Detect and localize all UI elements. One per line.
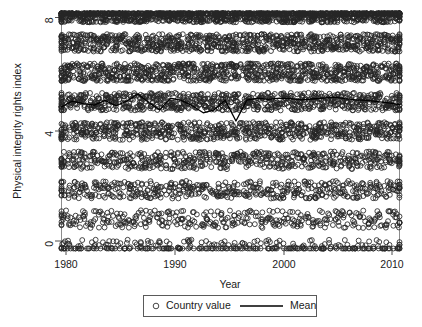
scatter-point [228, 208, 233, 213]
scatter-point [120, 48, 125, 53]
scatter-point [275, 151, 280, 156]
scatter-point [97, 225, 102, 230]
scatter-point [349, 121, 354, 126]
scatter-point [125, 237, 130, 242]
scatter-point [209, 165, 214, 170]
scatter-point [254, 162, 259, 167]
scatter-point [255, 238, 260, 243]
scatter-point [126, 225, 131, 230]
scatter-point [76, 196, 81, 201]
chart-figure: 8 4 0 1980 1990 2000 2010 Physical integ… [0, 0, 422, 327]
scatter-plot: 8 4 0 1980 1990 2000 2010 Physical integ… [0, 0, 422, 327]
scatter-point [247, 222, 252, 227]
scatter-point [80, 238, 85, 243]
x-tick-label-1990: 1990 [163, 258, 187, 270]
scatter-point [141, 215, 146, 220]
x-tick-label-2000: 2000 [272, 258, 296, 270]
scatter-point [252, 222, 257, 227]
scatter-point [67, 165, 72, 170]
x-tick-label-2010: 2010 [380, 258, 404, 270]
scatter-point [278, 108, 283, 113]
y-tick-label-4: 4 [43, 131, 55, 137]
scatter-point [274, 120, 279, 125]
scatter-point [258, 241, 263, 246]
scatter-points-layer [59, 11, 402, 251]
scatter-point [224, 121, 229, 126]
scatter-point [202, 194, 207, 199]
scatter-point [64, 208, 69, 213]
y-tick-label-0: 0 [43, 241, 55, 247]
scatter-point [164, 192, 169, 197]
y-axis-title: Physical integrity rights index [11, 63, 23, 199]
legend-mean-label: Mean [290, 299, 316, 311]
x-tick-label-1980: 1980 [54, 258, 78, 270]
x-axis-ticks: 1980 1990 2000 2010 [54, 249, 404, 271]
scatter-point [89, 240, 94, 245]
scatter-point [252, 239, 257, 244]
scatter-point [197, 120, 202, 125]
scatter-point [61, 149, 66, 154]
scatter-point [384, 240, 389, 245]
scatter-point [176, 196, 181, 201]
scatter-point [329, 133, 334, 138]
scatter-point [111, 213, 116, 218]
scatter-point [199, 240, 204, 245]
scatter-point [232, 240, 237, 245]
scatter-point [372, 225, 377, 230]
scatter-point [275, 208, 280, 213]
scatter-point [259, 224, 264, 229]
scatter-point [194, 224, 199, 229]
scatter-point [251, 91, 256, 96]
scatter-point [342, 238, 347, 243]
scatter-point [279, 182, 284, 187]
scatter-point [260, 210, 265, 215]
scatter-point [236, 211, 241, 216]
scatter-point [78, 225, 83, 230]
scatter-point [152, 208, 157, 213]
chart-legend: Country value Mean [144, 296, 317, 317]
scatter-point [253, 159, 258, 164]
x-axis-title: Year [219, 278, 241, 290]
legend-country-value-label: Country value [166, 299, 231, 311]
scatter-point [361, 208, 366, 213]
scatter-point [216, 181, 221, 186]
scatter-point [102, 225, 107, 230]
scatter-point [356, 238, 361, 243]
scatter-point [175, 137, 180, 142]
scatter-point [330, 223, 335, 228]
scatter-point [367, 239, 372, 244]
scatter-point [144, 182, 149, 187]
scatter-point [306, 220, 311, 225]
scatter-point [306, 186, 311, 191]
scatter-point [124, 241, 129, 246]
y-tick-label-8: 8 [43, 17, 55, 23]
scatter-point [121, 185, 126, 190]
scatter-point [379, 136, 384, 141]
y-axis-ticks: 8 4 0 [43, 17, 61, 247]
